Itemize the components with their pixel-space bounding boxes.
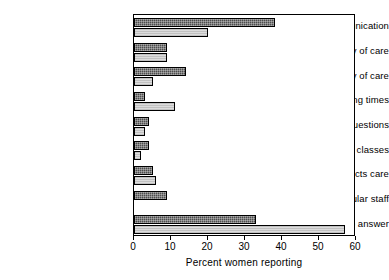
bar-dissatisfied-0 xyxy=(134,28,208,37)
bar-dissatisfied-2 xyxy=(134,77,153,86)
bar-dissatisfied-8 xyxy=(134,225,345,234)
bar-dissatisfied-1 xyxy=(134,53,167,62)
bar-dissatisfied-4 xyxy=(134,127,145,136)
bar-satisfied-8 xyxy=(134,215,256,224)
x-tick-label-5: 50 xyxy=(303,241,333,252)
bar-satisfied-2 xyxy=(134,67,186,76)
bar-satisfied-1 xyxy=(134,43,167,52)
x-tick-mark-2 xyxy=(207,236,208,240)
x-tick-mark-1 xyxy=(170,236,171,240)
x-tick-mark-5 xyxy=(318,236,319,240)
bar-dissatisfied-6 xyxy=(134,176,156,185)
bar-satisfied-4 xyxy=(134,117,149,126)
x-axis-title: Percent women reporting xyxy=(133,257,355,269)
x-tick-mark-4 xyxy=(281,236,282,240)
x-tick-label-4: 40 xyxy=(266,241,296,252)
bar-satisfied-6 xyxy=(134,166,153,175)
bar-satisfied-3 xyxy=(134,92,145,101)
bar-satisfied-5 xyxy=(134,141,149,150)
bar-satisfied-7 xyxy=(134,191,167,200)
x-tick-label-6: 60 xyxy=(340,241,370,252)
x-tick-mark-3 xyxy=(244,236,245,240)
percent-women-reporting-bar-chart: CommunicationContinuity of careEfficienc… xyxy=(0,0,389,280)
x-tick-label-1: 10 xyxy=(155,241,185,252)
x-tick-label-0: 0 xyxy=(118,241,148,252)
bar-dissatisfied-5 xyxy=(134,151,141,160)
x-tick-label-2: 20 xyxy=(192,241,222,252)
bar-satisfied-0 xyxy=(134,18,275,27)
x-tick-mark-0 xyxy=(133,236,134,240)
bar-dissatisfied-3 xyxy=(134,102,175,111)
x-tick-mark-6 xyxy=(355,236,356,240)
plot-area: SatisfiedDissatisfied xyxy=(133,14,355,236)
x-tick-label-3: 30 xyxy=(229,241,259,252)
